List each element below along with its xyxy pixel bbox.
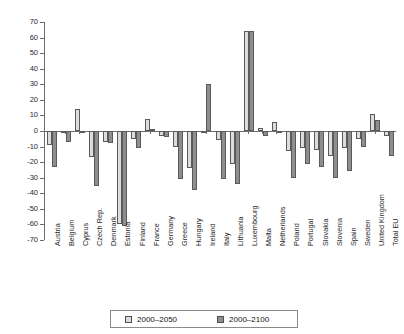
legend-label: 2000–2050 — [137, 315, 177, 324]
x-label-sweden: Sweden — [364, 220, 371, 246]
x-label-slovakia: Slovakia — [322, 218, 329, 246]
legend-swatch-icon — [125, 316, 132, 323]
x-label-slovenia: Slovenia — [336, 218, 343, 246]
x-label-france: France — [153, 223, 160, 246]
x-label-finland: Finland — [139, 222, 146, 246]
y-tick-label: -50 — [27, 205, 38, 213]
y-tick-label: 20 — [30, 96, 38, 104]
x-label-italy: Italy — [223, 233, 230, 246]
x-label-spain: Spain — [350, 227, 357, 246]
x-label-cyprus: Cyprus — [82, 223, 89, 246]
x-label-greece: Greece — [181, 222, 188, 246]
x-label-poland: Poland — [293, 223, 300, 246]
x-label-portugal: Portugal — [307, 219, 314, 246]
x-label-total-eu: Total EU — [392, 218, 399, 246]
x-label-netherlands: Netherlands — [279, 207, 286, 246]
y-tick-label: -70 — [27, 236, 38, 244]
x-label-hungary: Hungary — [195, 218, 202, 246]
x-label-belgium: Belgium — [68, 220, 75, 246]
x-label-germany: Germany — [167, 216, 174, 246]
x-label-malta: Malta — [265, 228, 272, 246]
y-tick-label: 10 — [30, 112, 38, 120]
y-tick-label: 50 — [30, 49, 38, 57]
y-tick-label: -40 — [27, 190, 38, 198]
x-label-czech-rep-: Czech Rep. — [96, 208, 103, 246]
y-tick-label: 70 — [30, 18, 38, 26]
legend-item-2000-2100: 2000–2100 — [217, 315, 269, 324]
y-tick-label: -10 — [27, 143, 38, 151]
y-tick-label: 30 — [30, 81, 38, 89]
x-axis-labels: AustriaBelgiumCyprusCzech Rep.DenmarkEst… — [44, 0, 396, 334]
y-tick-label: 40 — [30, 65, 38, 73]
y-tick-label: -60 — [27, 221, 38, 229]
x-label-denmark: Denmark — [110, 216, 117, 246]
x-label-luxembourg: Luxembourg — [251, 205, 258, 246]
x-label-austria: Austria — [54, 223, 61, 246]
y-tick-label: 60 — [30, 34, 38, 42]
y-tick-label: -30 — [27, 174, 38, 182]
legend-swatch-icon — [217, 316, 224, 323]
bar-chart: 706050403020100-10-20-30-40-50-60-70 Aus… — [0, 0, 404, 334]
legend-label: 2000–2100 — [229, 315, 269, 324]
y-tick-label: 0 — [34, 127, 38, 135]
x-label-ireland: Ireland — [209, 224, 216, 246]
chart-legend: 2000–2050 2000–2100 — [110, 310, 298, 328]
x-label-estonia: Estonia — [124, 222, 131, 246]
legend-item-2000-2050: 2000–2050 — [125, 315, 177, 324]
x-label-united-kingdom: United Kingdom — [378, 194, 385, 246]
x-label-lithuania: Lithuania — [237, 216, 244, 246]
y-tick-label: -20 — [27, 158, 38, 166]
